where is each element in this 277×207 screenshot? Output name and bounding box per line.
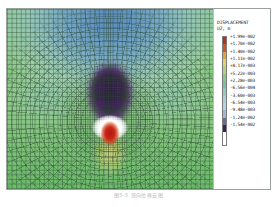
legend-tick-label: +1.11e-002: [230, 55, 271, 62]
figure-caption: 图5-5 竖向位移云图: [0, 192, 277, 199]
legend-swatch-8: [223, 96, 226, 103]
legend-swatch-11: [223, 118, 226, 125]
legend-panel: DISPLACEMENT U2, m +1.99e-002+1.70e-002+…: [213, 9, 270, 189]
legend-tick-list: +1.99e-002+1.70e-002+1.40e-002+1.11e-002…: [230, 33, 271, 128]
legend-tick-label: -9.48e-003: [230, 106, 271, 113]
contour-figure: DISPLACEMENT U2, m +1.99e-002+1.70e-002+…: [6, 8, 271, 190]
legend-swatch-5: [223, 74, 226, 81]
legend-swatch-0: [223, 37, 226, 44]
legend-swatch-1: [223, 44, 226, 51]
legend-tick-label: -1.24e-002: [230, 114, 271, 121]
legend-tick-label: +1.70e-002: [230, 40, 271, 47]
legend-subtitle: U2, m: [217, 26, 271, 31]
heave-peak-overlay: [7, 9, 213, 189]
legend-swatch-7: [223, 88, 226, 95]
legend-tick-label: +5.22e-003: [230, 70, 271, 77]
legend-swatch-10: [223, 110, 226, 117]
figure-root: DISPLACEMENT U2, m +1.99e-002+1.70e-002+…: [0, 0, 277, 207]
legend-tick-label: +1.99e-002: [230, 33, 271, 40]
legend-tick-label: -6.56e-004: [230, 84, 271, 91]
legend-swatch-12: [223, 125, 226, 132]
legend-swatch-3: [223, 59, 226, 66]
legend-swatch-6: [223, 81, 226, 88]
legend-color-bar: [222, 36, 227, 146]
legend-tick-label: -1.54e-002: [230, 121, 271, 128]
legend-tick-label: +1.40e-002: [230, 48, 271, 55]
legend-tick-label: +2.28e-003: [230, 77, 271, 84]
legend-swatch-2: [223, 52, 226, 59]
legend-tick-label: -6.54e-003: [230, 99, 271, 106]
legend-tick-label: +8.17e-003: [230, 62, 271, 69]
legend-swatch-4: [223, 66, 226, 73]
legend-tick-label: -3.60e-003: [230, 92, 271, 99]
legend-title: DISPLACEMENT: [217, 20, 271, 25]
legend-swatch-9: [223, 103, 226, 110]
contour-plot-area: [7, 9, 213, 189]
